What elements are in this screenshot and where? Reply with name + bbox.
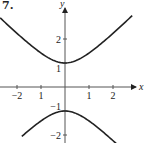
hyperbola-graph: x y −2112 21−1−2 [0, 0, 146, 143]
y-tick-label: 2 [56, 34, 61, 45]
y-tick-label: −1 [50, 101, 61, 112]
y-axis-label: y [59, 0, 65, 9]
x-tick-label: 1 [39, 90, 44, 101]
x-tick-label: 1 [87, 90, 92, 101]
x-tick-label: −2 [12, 90, 23, 101]
x-axis-label: x [138, 81, 144, 92]
lower-branch-curve [22, 111, 120, 143]
x-tick-label: 2 [111, 90, 116, 101]
y-tick-label: −2 [50, 130, 61, 141]
y-tick-label: 1 [56, 63, 61, 74]
